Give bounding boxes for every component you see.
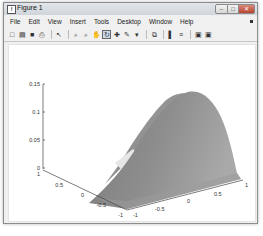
brush-dropdown-icon[interactable]: ▾ [133,31,141,39]
toolbar-separator [51,30,52,39]
z-tick-label: 0.05 [29,137,40,143]
menu-file[interactable]: File [10,18,20,25]
x-tick-label: 0 [187,198,190,204]
menu-desktop[interactable]: Desktop [117,18,141,25]
menu-view[interactable]: View [48,18,62,25]
x-tick-label: 0.5 [214,191,222,197]
plot-canvas[interactable]: 0.15 0.1 0.05 0 1 0.5 0 -0.5 -1 [8,44,256,222]
dock-figure-button[interactable] [250,20,253,23]
show-plot-tools-icon[interactable]: ▣ [204,31,212,39]
save-icon[interactable]: ■ [28,31,36,39]
edit-plot-icon[interactable]: ↖ [55,31,63,39]
menu-tools[interactable]: Tools [94,18,109,25]
close-button[interactable]: ✕ [239,4,255,14]
y-tick-label: 1 [37,171,40,177]
hide-plot-tools-icon[interactable]: ▣ [194,31,202,39]
menu-bar: File Edit View Insert Tools Desktop Wind… [4,16,257,27]
insert-colorbar-icon[interactable]: ▌ [167,31,175,39]
toolbar-separator [190,30,191,39]
menu-help[interactable]: Help [180,18,193,25]
surface-plot[interactable]: 0.15 0.1 0.05 0 1 0.5 0 -0.5 -1 [9,45,255,221]
y-tick-label: 0.5 [55,182,63,188]
matlab-figure-icon: f [7,5,16,14]
print-icon[interactable]: ⎙ [38,31,46,39]
toolbar-separator [146,30,147,39]
open-file-icon[interactable]: ▤ [18,31,26,39]
x-tick-label: 1 [245,182,248,188]
menu-edit[interactable]: Edit [28,18,39,25]
maximize-button[interactable]: □ [228,4,239,14]
y-tick-label: -1 [118,212,123,218]
toolbar-separator [68,30,69,39]
zoom-out-icon[interactable]: ⌕ [82,31,90,39]
brush-icon[interactable]: ✎ [123,31,131,39]
figure-toolbar: □ ▤ ■ ⎙ ↖ ⌕ ⌕ ✋ ↻ ✚ ✎ ▾ ⧉ ▌ ≡ ▣ ▣ [4,28,257,42]
pan-icon[interactable]: ✋ [92,31,100,39]
figure-window: f Figure 1 – □ ✕ File Edit View Insert T… [3,2,258,224]
title-bar[interactable]: f Figure 1 – □ ✕ [4,3,257,15]
new-figure-icon[interactable]: □ [8,31,16,39]
menu-window[interactable]: Window [149,18,172,25]
z-tick-label: 0.15 [29,81,40,87]
link-plot-icon[interactable]: ⧉ [150,31,158,39]
y-tick-label: 0 [81,192,84,198]
insert-legend-icon[interactable]: ≡ [177,31,185,39]
menu-insert[interactable]: Insert [70,18,86,25]
zoom-in-icon[interactable]: ⌕ [72,31,80,39]
y-tick-label: -0.5 [97,202,106,208]
x-tick-label: -1 [133,212,138,218]
data-cursor-icon[interactable]: ✚ [113,31,121,39]
z-axis: 0.15 0.1 0.05 0 [29,81,45,171]
window-controls: – □ ✕ [215,4,255,13]
x-tick-label: -0.5 [155,206,164,212]
rotate-3d-icon[interactable]: ↻ [102,30,111,39]
window-title: Figure 1 [17,4,43,11]
minimize-button[interactable]: – [215,4,228,14]
toolbar-separator [163,30,164,39]
z-tick-label: 0.1 [32,109,40,115]
